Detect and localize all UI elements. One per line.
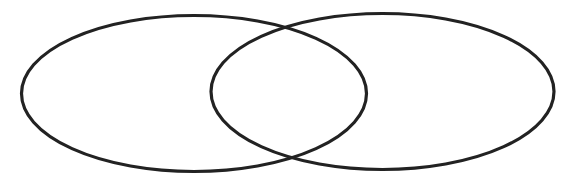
left-set-ellipse: [22, 16, 367, 172]
venn-diagram-svg: [0, 0, 574, 180]
right-set-ellipse: [211, 14, 554, 170]
venn-diagram: [0, 0, 574, 180]
